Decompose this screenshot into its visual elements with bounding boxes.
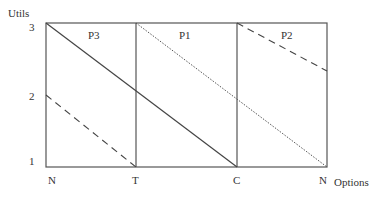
panel-label-p3: P3 xyxy=(88,29,100,41)
dashed-line-left xyxy=(46,95,136,167)
utility-diagram: Utils 3 2 1 N T C N Options P3 P1 P2 xyxy=(0,0,384,198)
dotted-line xyxy=(136,23,327,167)
y-tick-2: 2 xyxy=(29,90,35,102)
y-tick-3: 3 xyxy=(29,21,35,33)
x-tick-t: T xyxy=(132,174,139,186)
x-tick-c: C xyxy=(233,174,240,186)
y-tick-1: 1 xyxy=(29,155,35,167)
panel-label-p1: P1 xyxy=(179,29,191,41)
solid-line xyxy=(46,23,237,167)
panel-label-p2: P2 xyxy=(281,29,293,41)
x-tick-n-left: N xyxy=(48,174,56,186)
y-axis-label: Utils xyxy=(8,7,29,19)
diagram-frame xyxy=(46,23,327,167)
x-tick-n-right: N xyxy=(319,174,327,186)
x-axis-label: Options xyxy=(334,176,369,188)
